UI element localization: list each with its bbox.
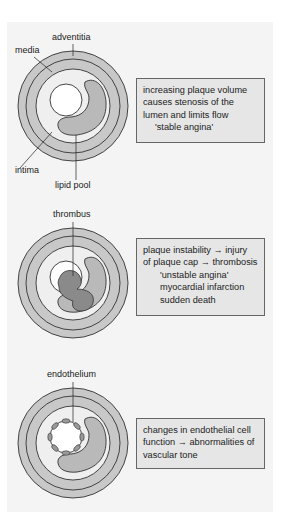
- label-thrombus: thrombus: [53, 210, 91, 219]
- caption-line: changes in endothelial cell: [143, 424, 259, 436]
- caption-line: lumen and limits flow: [143, 109, 259, 121]
- caption-box-endothelial: changes in endothelial cell function → a…: [136, 418, 265, 469]
- caption-line: 'unstable angina': [143, 269, 259, 281]
- caption-line: function → abnormalities of: [143, 436, 259, 448]
- label-adventitia: adventitia: [52, 33, 91, 42]
- caption-line: increasing plaque volume: [143, 84, 259, 96]
- label-endothelium: endothelium: [47, 370, 96, 379]
- caption-box-stable-angina: increasing plaque volume causes stenosis…: [136, 78, 265, 143]
- caption-line: causes stenosis of the: [143, 96, 259, 108]
- caption-line: sudden death: [143, 294, 259, 306]
- label-intima: intima: [15, 166, 39, 175]
- label-lipid-pool: lipid pool: [55, 181, 91, 190]
- artery-stable-plaque: [18, 51, 128, 161]
- caption-line: myocardial infarction: [143, 281, 259, 293]
- caption-line: 'stable angina': [143, 121, 259, 133]
- label-media: media: [15, 46, 40, 55]
- caption-line: plaque instability → injury: [143, 244, 259, 256]
- caption-line: of plaque cap → thrombosis: [143, 256, 259, 268]
- caption-box-unstable-angina: plaque instability → injury of plaque ca…: [136, 238, 265, 316]
- caption-line: vascular tone: [143, 449, 259, 461]
